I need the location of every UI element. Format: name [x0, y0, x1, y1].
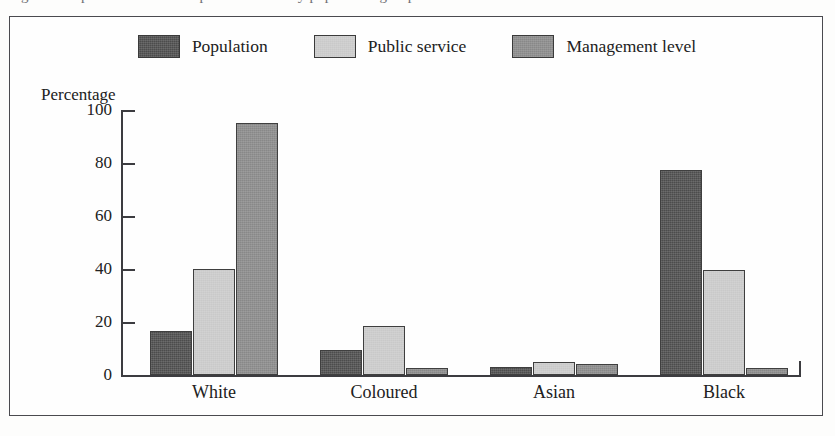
y-axis-tick: 40	[121, 269, 135, 271]
bar-group	[490, 110, 618, 375]
plot-area-wrapper: Percentage 020406080100 WhiteColouredAsi…	[10, 17, 824, 417]
y-axis-tick: 80	[121, 163, 135, 165]
x-axis-tick-label: Coloured	[320, 382, 448, 403]
bar[interactable]	[703, 270, 745, 375]
y-axis-tick: 20	[121, 322, 135, 324]
bar[interactable]	[236, 123, 278, 375]
bar[interactable]	[406, 368, 448, 375]
y-axis-tick: 60	[121, 216, 135, 218]
bar-group	[660, 110, 788, 375]
x-axis-line	[121, 375, 801, 377]
bar[interactable]	[363, 326, 405, 375]
bar[interactable]	[193, 269, 235, 375]
x-axis-tick-label: Asian	[490, 382, 618, 403]
y-axis-line	[121, 110, 123, 376]
bar-group	[320, 110, 448, 375]
bar[interactable]	[660, 170, 702, 375]
bar[interactable]	[490, 367, 532, 375]
x-axis-tick-label: White	[150, 382, 278, 403]
plot-area: 020406080100 WhiteColouredAsianBlack	[121, 110, 801, 375]
y-axis-tick-label: 60	[95, 206, 112, 226]
x-axis-right-cap	[799, 361, 801, 376]
bar[interactable]	[320, 350, 362, 375]
bar[interactable]	[533, 362, 575, 375]
y-axis-tick-label: 0	[104, 365, 113, 385]
page-background: Figure 3 Representation in the public se…	[0, 0, 835, 436]
bar[interactable]	[746, 368, 788, 375]
y-axis-tick-label: 40	[95, 259, 112, 279]
y-axis-tick: 0	[121, 375, 135, 377]
y-axis-tick-label: 80	[95, 153, 112, 173]
figure-caption-text: Figure 3 Representation in the public se…	[8, 0, 416, 4]
y-axis-tick-label: 20	[95, 312, 112, 332]
bar-group	[150, 110, 278, 375]
bar[interactable]	[150, 331, 192, 375]
y-axis-tick-label: 100	[87, 100, 113, 120]
y-axis-tick: 100	[121, 110, 135, 112]
chart-frame: PopulationPublic serviceManagement level…	[9, 16, 823, 416]
bar[interactable]	[576, 364, 618, 375]
figure-caption-cropped: Figure 3 Representation in the public se…	[0, 0, 835, 12]
x-axis-tick-label: Black	[660, 382, 788, 403]
